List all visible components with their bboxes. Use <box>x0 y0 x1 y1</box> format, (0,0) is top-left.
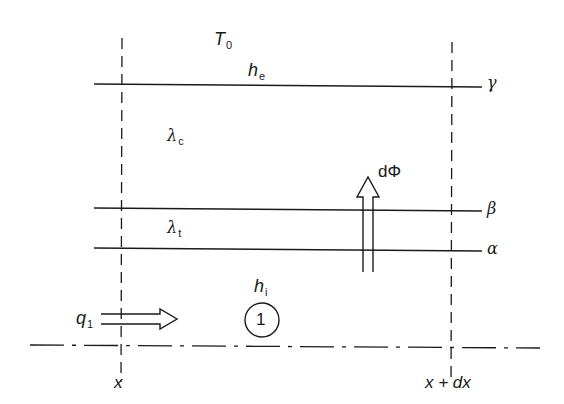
section-line-x <box>121 38 122 382</box>
section-line-x-dx <box>451 42 452 384</box>
surface-gamma-line <box>94 84 482 87</box>
surface-alpha-line <box>94 248 482 251</box>
region-number-label: 1 <box>256 311 265 328</box>
surface-gamma-label: γ <box>487 75 497 91</box>
lambda-t-label: λt <box>167 220 181 236</box>
heat-flow-arrow-icon <box>101 309 177 329</box>
heat-transfer-diagram: T0 he λc dΦ λt hi q1 1 γ β α x x + dx <box>0 0 564 404</box>
symmetry-axis-line <box>30 345 540 348</box>
flux-label: dΦ <box>378 163 401 180</box>
internal-coefficient-label: hi <box>254 277 267 295</box>
x-left-label: x <box>114 374 123 391</box>
external-coefficient-label: he <box>248 61 265 79</box>
ambient-temperature-label: T0 <box>214 30 232 48</box>
lambda-c-label: λc <box>167 128 184 144</box>
surface-beta-line <box>94 208 482 211</box>
surface-beta-label: β <box>487 201 496 217</box>
surface-alpha-label: α <box>487 241 498 257</box>
x-right-label: x + dx <box>425 374 471 391</box>
heat-flow-label: q1 <box>76 309 93 327</box>
diagram-lines <box>0 0 564 404</box>
flux-arrow-icon <box>357 177 379 272</box>
